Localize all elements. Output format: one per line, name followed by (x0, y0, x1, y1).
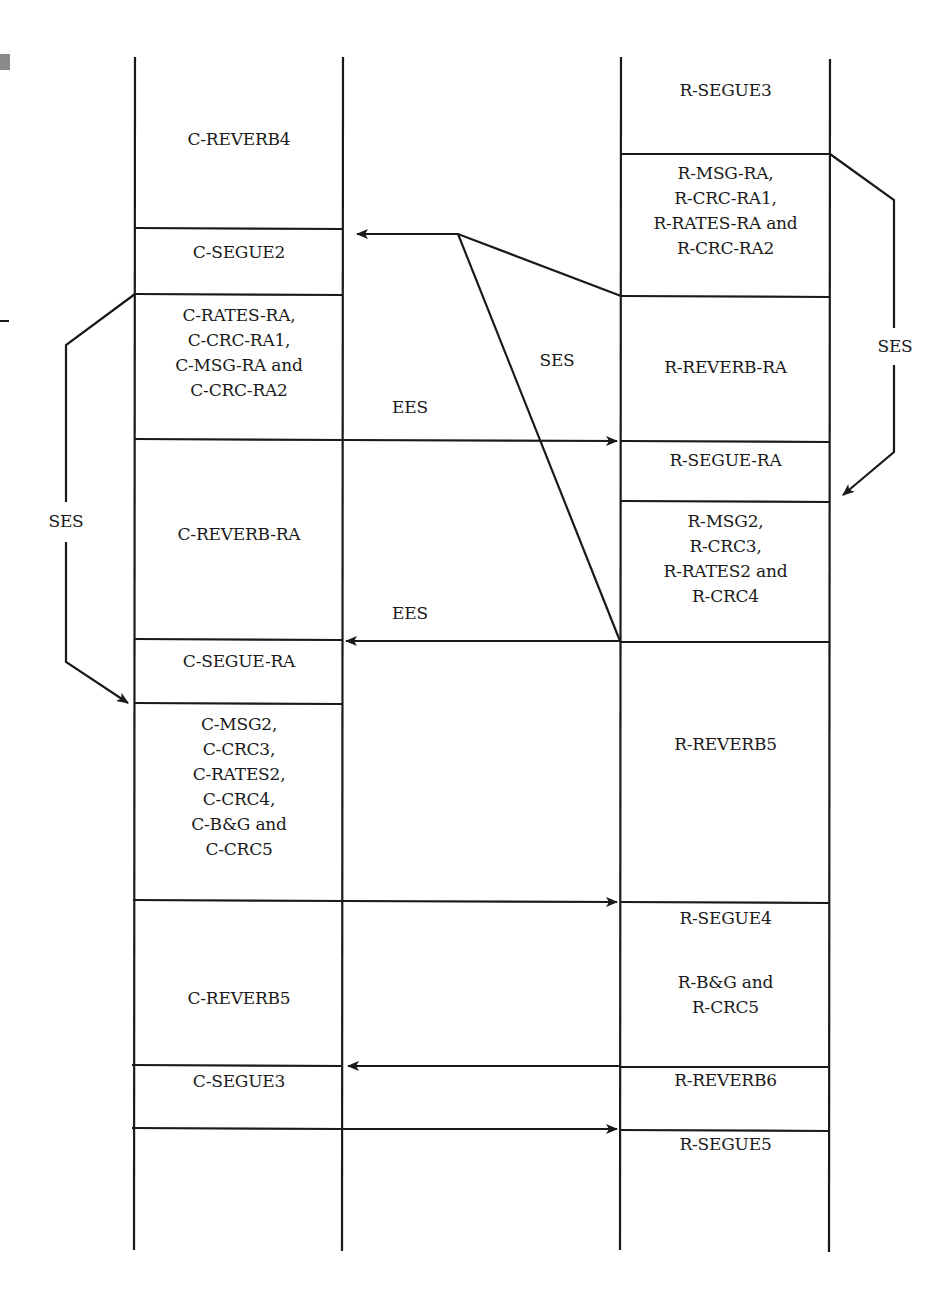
right-block-r-reverb-ra: R-REVERB-RA (621, 355, 830, 380)
ses-left-bracket-top (66, 294, 135, 502)
message-sequence-diagram: C-REVERB4 C-SEGUE2 C-RATES-RA, C-CRC-RA1… (0, 0, 935, 1299)
ses-right-bracket-bottom (843, 365, 894, 495)
annotation-ses-left: SES (36, 509, 96, 534)
annotation-ses-right: SES (865, 334, 925, 359)
right-block-r-bg: R-B&G and R-CRC5 (621, 970, 830, 1020)
right-block-r-segue4: R-SEGUE4 (621, 906, 830, 931)
right-block-r-msg-ra: R-MSG-RA, R-CRC-RA1, R-RATES-RA and R-CR… (621, 161, 830, 261)
ses-left-bracket-bottom (66, 542, 128, 703)
left-block-c-segue3: C-SEGUE3 (135, 1069, 343, 1094)
ses-right-bracket-top (830, 154, 894, 328)
left-block-c-segue2: C-SEGUE2 (135, 240, 343, 265)
right-block-r-segue-ra: R-SEGUE-RA (621, 448, 830, 473)
right-block-r-reverb6: R-REVERB6 (621, 1068, 830, 1093)
arrow-c-to-r-ees-1 (343, 440, 617, 441)
annotation-ees-upper: EES (380, 395, 440, 420)
annotation-ees-lower: EES (380, 601, 440, 626)
right-block-r-segue3: R-SEGUE3 (621, 78, 830, 103)
ses-diagonal-line (458, 234, 620, 641)
annotation-ses-middle: SES (527, 348, 587, 373)
left-block-c-rates-ra: C-RATES-RA, C-CRC-RA1, C-MSG-RA and C-CR… (135, 303, 343, 403)
left-block-c-reverb5: C-REVERB5 (135, 986, 343, 1011)
right-block-r-msg2: R-MSG2, R-CRC3, R-RATES2 and R-CRC4 (621, 509, 830, 609)
right-block-r-segue5: R-SEGUE5 (621, 1132, 830, 1157)
arrow-c-to-r-segue4 (343, 901, 617, 902)
left-block-c-reverb4: C-REVERB4 (135, 127, 343, 152)
right-block-r-reverb5: R-REVERB5 (621, 732, 830, 757)
arrow-r-to-c-segue2 (357, 234, 621, 296)
left-block-c-reverb-ra: C-REVERB-RA (135, 522, 343, 547)
left-block-c-segue-ra: C-SEGUE-RA (135, 649, 343, 674)
left-block-c-msg2: C-MSG2, C-CRC3, C-RATES2, C-CRC4, C-B&G … (135, 712, 343, 862)
